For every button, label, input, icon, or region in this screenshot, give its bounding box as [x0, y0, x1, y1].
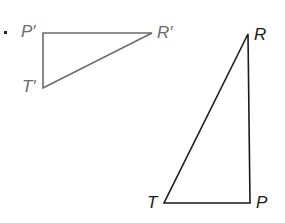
triangles-figure: [0, 0, 285, 223]
label-p-prime: P′: [21, 23, 36, 40]
label-p: P: [256, 194, 267, 211]
triangle-p-prime-r-prime-t-prime: [43, 33, 152, 88]
triangle-rpt: [164, 34, 250, 203]
label-r: R: [254, 26, 266, 43]
label-r-prime: R′: [157, 24, 172, 41]
label-t: T: [147, 194, 157, 211]
label-t-prime: T′: [22, 78, 36, 95]
